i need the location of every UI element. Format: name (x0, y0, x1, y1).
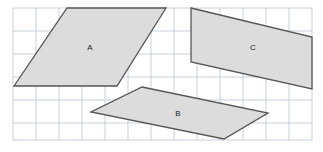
diagram-canvas: ABC (0, 0, 323, 152)
shape-a-label: A (87, 43, 93, 52)
shape-b-label: B (175, 109, 180, 118)
parallelograms-figure: ABC (0, 0, 323, 152)
shape-c-label: C (250, 43, 256, 52)
